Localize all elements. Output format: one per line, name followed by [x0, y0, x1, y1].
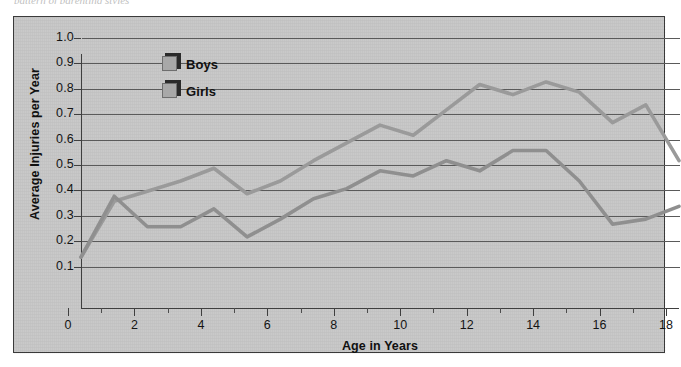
x-minor-tick-mark [301, 308, 302, 313]
gridline [82, 190, 680, 191]
y-tick-mark [74, 190, 81, 191]
y-axis-line [81, 54, 82, 308]
x-tick-mark [201, 308, 202, 316]
x-tick-label: 14 [518, 318, 548, 332]
y-tick-mark [74, 140, 81, 141]
x-tick-mark [666, 308, 667, 316]
x-tick-mark [134, 308, 135, 316]
legend-item-girls[interactable]: Girls [162, 78, 282, 105]
x-minor-tick-mark [168, 308, 169, 313]
x-tick-label: 4 [186, 318, 216, 332]
x-tick-mark [467, 308, 468, 316]
x-tick-label: 16 [585, 318, 615, 332]
gridline [82, 267, 680, 268]
x-tick-mark [68, 308, 69, 316]
gridline [82, 216, 680, 217]
gridline [82, 114, 680, 115]
x-minor-tick-mark [234, 308, 235, 313]
x-minor-tick-mark [633, 308, 634, 313]
x-minor-tick-mark [101, 308, 102, 313]
y-tick-mark [74, 114, 81, 115]
gridline [82, 241, 680, 242]
chart-figure-frame: 0.10.20.30.40.50.60.70.80.91.0 Average I… [13, 16, 665, 353]
legend-swatch-icon [162, 83, 179, 100]
cropped-caption-text: pattern of parenting styles [14, 0, 314, 4]
x-tick-mark [400, 308, 401, 316]
x-tick-label: 10 [385, 318, 415, 332]
x-minor-tick-mark [566, 308, 567, 313]
gridline [82, 38, 680, 39]
gridline [82, 140, 680, 141]
x-tick-label: 8 [319, 318, 349, 332]
x-tick-mark [267, 308, 268, 316]
x-axis-line [81, 308, 679, 309]
x-tick-mark [533, 308, 534, 316]
x-tick-label: 18 [651, 318, 681, 332]
chart-legend: Boys Girls [162, 51, 282, 105]
legend-item-boys[interactable]: Boys [162, 51, 282, 78]
x-minor-tick-mark [500, 308, 501, 313]
y-tick-mark [74, 63, 81, 64]
legend-label-girls: Girls [186, 84, 216, 99]
gridline [82, 165, 680, 166]
x-tick-label: 0 [53, 318, 83, 332]
y-tick-mark [74, 165, 81, 166]
y-axis-title: Average Injuries per Year [28, 19, 42, 269]
y-tick-mark [74, 267, 81, 268]
x-tick-label: 2 [119, 318, 149, 332]
y-tick-mark [74, 216, 81, 217]
x-minor-tick-mark [367, 308, 368, 313]
y-tick-mark [74, 89, 81, 90]
x-tick-label: 6 [252, 318, 282, 332]
x-axis-title: Age in Years [81, 339, 679, 353]
legend-swatch-icon [162, 56, 179, 73]
x-tick-mark [334, 308, 335, 316]
y-tick-mark [74, 38, 81, 39]
legend-label-boys: Boys [186, 57, 218, 72]
x-tick-mark [600, 308, 601, 316]
x-minor-tick-mark [433, 308, 434, 313]
x-tick-label: 12 [452, 318, 482, 332]
y-tick-mark [74, 241, 81, 242]
